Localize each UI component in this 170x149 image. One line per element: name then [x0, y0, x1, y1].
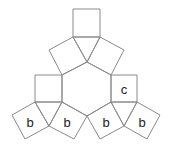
top-triangle: [73, 37, 100, 62]
label-b4: b: [138, 115, 145, 130]
upper-left-square: [49, 37, 87, 75]
upper-right-square: [87, 37, 124, 75]
label-c: c: [121, 82, 128, 97]
lower-left-triangle: [35, 102, 62, 126]
label-b1: b: [26, 115, 33, 130]
left-square: [35, 75, 62, 102]
diagram-canvas: c b b b b: [0, 0, 170, 149]
lower-right-triangle: [111, 102, 137, 126]
label-b2: b: [63, 115, 70, 130]
top-square: [73, 9, 100, 37]
hexagon: [62, 62, 111, 116]
label-b3: b: [102, 115, 109, 130]
